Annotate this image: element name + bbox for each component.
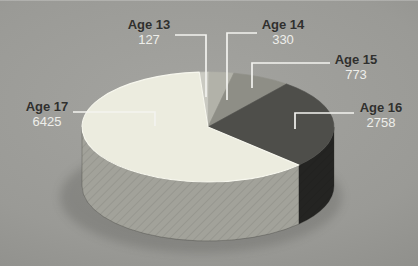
callout-age-15-title: Age 15 [335, 52, 378, 67]
callout-age-14-title: Age 14 [262, 17, 305, 32]
callout-age-15-value: 773 [335, 67, 378, 82]
callout-age-17: Age 17 6425 [26, 99, 69, 129]
callout-age-13-value: 127 [128, 32, 171, 47]
callout-age-16: Age 16 2758 [360, 100, 403, 130]
callout-age-13: Age 13 127 [128, 17, 171, 47]
callout-age-17-value: 6425 [26, 114, 69, 129]
callout-age-16-value: 2758 [360, 115, 403, 130]
callout-age-14: Age 14 330 [262, 17, 305, 47]
callout-age-15: Age 15 773 [335, 52, 378, 82]
callout-age-14-value: 330 [262, 32, 305, 47]
callout-age-13-title: Age 13 [128, 17, 171, 32]
chart-background: Age 13 127 Age 14 330 Age 15 773 Age 16 … [0, 0, 418, 266]
pie-chart [0, 0, 418, 266]
callout-age-16-title: Age 16 [360, 100, 403, 115]
callout-age-17-title: Age 17 [26, 99, 69, 114]
